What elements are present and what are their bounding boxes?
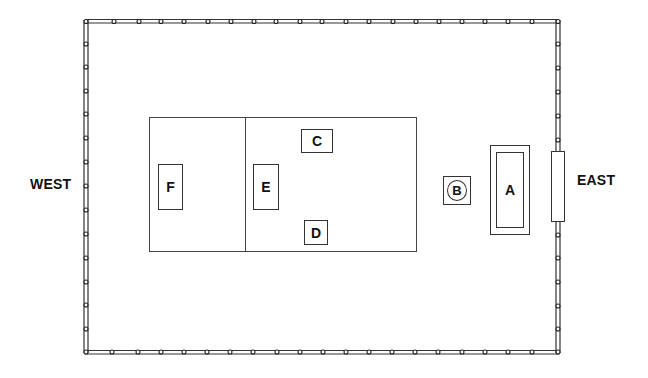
item-c: C (301, 129, 333, 153)
court-divider (245, 117, 246, 252)
item-b: B (443, 176, 471, 205)
item-d: D (304, 220, 328, 245)
east-gate (551, 151, 565, 222)
item-f: F (158, 164, 183, 210)
court-area (149, 117, 417, 252)
west-label: WEST (30, 176, 71, 192)
item-a: A (490, 145, 530, 235)
item-b-circle: B (447, 180, 467, 201)
item-a-label: A (496, 152, 524, 228)
item-e: E (253, 164, 279, 210)
east-label: EAST (577, 172, 615, 188)
